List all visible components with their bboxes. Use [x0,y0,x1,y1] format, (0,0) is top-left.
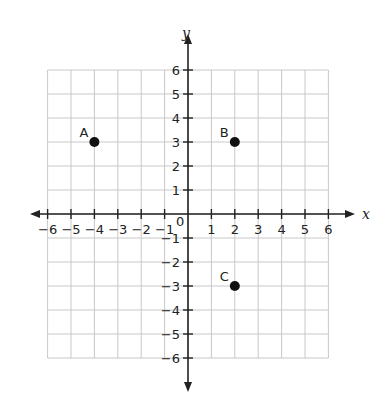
y-tick-label: 1 [172,183,180,198]
y-tick-label: −6 [161,351,180,366]
x-tick-label: 5 [301,222,309,237]
x-tick-label: 2 [231,222,239,237]
y-tick-label: −2 [161,255,180,270]
coordinate-plane: x y 0 −6−5−4−3−2−1123456−6−5−4−3−2−11234… [0,0,386,402]
x-tick-label: 1 [207,222,215,237]
x-axis-label: x [362,206,370,222]
point-label: B [220,125,229,140]
x-tick-label: −5 [61,222,80,237]
point-marker [230,137,240,147]
y-tick-label: −1 [161,231,180,246]
x-tick-label: 4 [277,222,285,237]
y-tick-label: −3 [161,279,180,294]
y-tick-label: 6 [172,63,180,78]
x-tick-label: −2 [132,222,151,237]
x-tick-label: −6 [38,222,57,237]
point-marker [89,137,99,147]
x-tick-label: 3 [254,222,262,237]
origin-label: 0 [176,214,184,229]
point-label: A [79,125,88,140]
x-tick-label: 6 [324,222,332,237]
x-axis-arrow-left-icon [30,210,40,218]
x-tick-label: −3 [108,222,127,237]
point-a: A [79,125,99,147]
points: ABC [79,125,239,291]
y-tick-label: −5 [161,327,180,342]
point-b: B [220,125,240,147]
x-axis-arrow-right-icon [345,210,355,218]
y-tick-label: 3 [172,135,180,150]
y-axis-arrow-down-icon [184,382,192,392]
y-tick-label: 5 [172,87,180,102]
axes: x y 0 [30,25,370,392]
point-marker [230,281,240,291]
y-tick-label: 4 [172,111,180,126]
point-label: C [220,269,229,284]
y-axis-label: y [181,25,191,41]
point-c: C [220,269,240,291]
y-tick-label: −4 [161,303,180,318]
y-tick-label: 2 [172,159,180,174]
x-tick-label: −4 [85,222,104,237]
